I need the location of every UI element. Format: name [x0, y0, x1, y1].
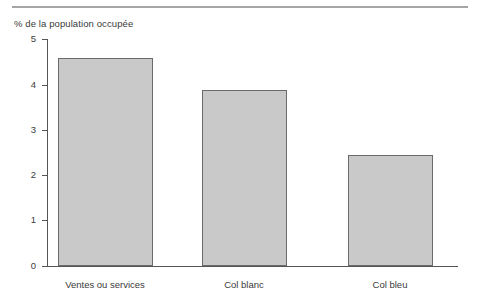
y-tick-mark-2: [42, 175, 48, 176]
x-axis-line: [47, 266, 458, 267]
y-tick-label-5: 5: [8, 34, 36, 44]
y-tick-mark-0: [42, 266, 48, 267]
chart-figure: % de la population occupée 0 1 2 3 4 5: [0, 0, 479, 301]
y-tick-mark-5: [42, 39, 48, 40]
y-tick-label-0: 0: [8, 261, 36, 271]
y-tick-mark-4: [42, 85, 48, 86]
x-tick-label-1: Col blanc: [224, 279, 264, 290]
bar-col-blanc[interactable]: [202, 90, 287, 266]
y-tick-label-3: 3: [8, 125, 36, 135]
y-tick-mark-1: [42, 220, 48, 221]
y-axis-line: [47, 39, 48, 267]
bar-ventes-ou-services[interactable]: [58, 58, 153, 266]
x-tick-label-2: Col bleu: [373, 279, 408, 290]
x-tick-label-0: Ventes ou services: [65, 279, 145, 290]
y-tick-label-2: 2: [8, 170, 36, 180]
bar-col-bleu[interactable]: [348, 155, 433, 266]
y-tick-label-1: 1: [8, 215, 36, 225]
plot-area: 0 1 2 3 4 5 Ventes ou services Col blanc…: [0, 0, 479, 301]
y-tick-label-4: 4: [8, 80, 36, 90]
y-tick-mark-3: [42, 130, 48, 131]
